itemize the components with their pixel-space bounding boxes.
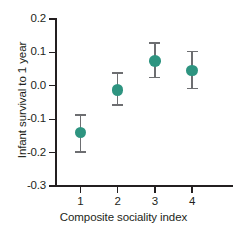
x-axis-tick-label: 2 xyxy=(108,195,128,207)
data-point-marker xyxy=(75,127,87,139)
x-axis-tick xyxy=(117,187,118,193)
y-axis-tick xyxy=(49,119,55,120)
x-axis-tick xyxy=(191,187,192,193)
data-point-marker xyxy=(186,65,198,77)
error-bar-cap-lower xyxy=(149,77,160,79)
x-axis-tick-label: 4 xyxy=(182,195,202,207)
x-axis-tick-label: 3 xyxy=(145,195,165,207)
data-point-marker xyxy=(112,84,124,96)
error-bar-cap-upper xyxy=(187,51,198,53)
y-axis-tick xyxy=(49,52,55,53)
y-axis-tick xyxy=(49,152,55,153)
error-bar-cap-lower xyxy=(112,104,123,106)
x-axis-tick xyxy=(154,187,155,193)
y-axis-title: Infant survival to 1 year xyxy=(16,15,28,185)
error-bar-cap-upper xyxy=(112,72,123,74)
x-axis-tick xyxy=(80,187,81,193)
error-bar-cap-upper xyxy=(75,114,86,116)
y-axis-tick xyxy=(49,18,55,19)
y-axis-tick xyxy=(49,85,55,86)
error-bar-cap-upper xyxy=(149,42,160,44)
error-bar-cap-lower xyxy=(187,88,198,90)
y-axis-tick xyxy=(49,185,55,186)
chart-container: 0.20.10.0-0.1-0.2-0.3 1234 Infant surviv… xyxy=(0,0,247,233)
x-axis-line xyxy=(55,185,233,187)
x-axis-title: Composite sociality index xyxy=(0,211,247,223)
data-point-marker xyxy=(149,55,161,67)
error-bar-cap-lower xyxy=(75,151,86,153)
y-axis-line xyxy=(55,18,57,187)
x-axis-tick-label: 1 xyxy=(71,195,91,207)
